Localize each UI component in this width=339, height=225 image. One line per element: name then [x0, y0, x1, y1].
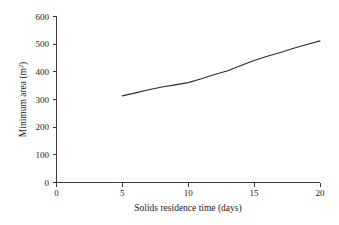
chart-background — [0, 0, 339, 225]
chart-figure: 0 100 200 300 400 500 600 0 5 10 15 20 S… — [0, 0, 339, 225]
x-tick-label-15: 15 — [250, 188, 260, 198]
y-axis-title: Minimum area (m2) — [17, 62, 29, 137]
y-tick-label-0: 0 — [45, 178, 50, 188]
svg-text:Minimum area (m2): Minimum area (m2) — [17, 62, 29, 137]
y-tick-label-500: 500 — [36, 39, 50, 49]
x-tick-label-10: 10 — [184, 188, 194, 198]
x-tick-label-5: 5 — [120, 188, 125, 198]
y-tick-label-400: 400 — [36, 67, 50, 77]
y-tick-label-200: 200 — [36, 122, 50, 132]
x-tick-label-0: 0 — [54, 188, 59, 198]
x-tick-label-20: 20 — [316, 188, 326, 198]
y-tick-label-600: 600 — [36, 12, 50, 22]
y-tick-label-300: 300 — [36, 95, 50, 105]
y-axis-title-tail: ) — [18, 62, 29, 65]
x-axis-title: Solids residence time (days) — [134, 203, 241, 214]
chart-plot-area: 0 100 200 300 400 500 600 0 5 10 15 20 S… — [0, 0, 339, 225]
y-tick-label-100: 100 — [36, 150, 50, 160]
y-axis-title-main: Minimum area (m — [18, 67, 29, 137]
